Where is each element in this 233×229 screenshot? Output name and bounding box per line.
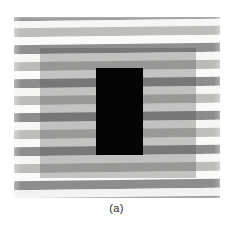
black-target-rect [96,68,143,155]
figure-caption: (a) [0,202,233,214]
figure-container: (a) [0,0,233,229]
stimulus-image [14,17,220,198]
